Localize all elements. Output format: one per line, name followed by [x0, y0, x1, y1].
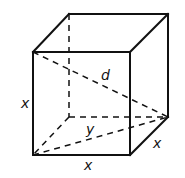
label-depth: x [152, 135, 162, 151]
label-face-diagonal: y [85, 121, 95, 137]
edge-bottom-right-depth [130, 117, 168, 155]
space-diagonal-d [33, 52, 168, 117]
label-front-width: x [83, 157, 93, 173]
label-front-height: x [20, 95, 30, 111]
label-space-diagonal: d [101, 67, 110, 83]
hidden-edge-bottom-left-depth [33, 117, 69, 155]
edge-top-left-depth [33, 14, 69, 52]
front-face [33, 52, 130, 155]
edge-top-right-depth [130, 14, 168, 52]
cube-diagram: x x x d y [0, 0, 185, 178]
